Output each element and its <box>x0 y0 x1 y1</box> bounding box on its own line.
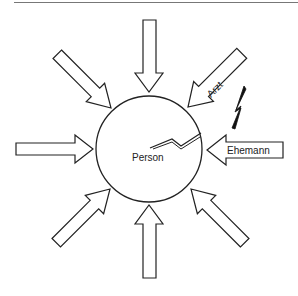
lightning-line-icon <box>150 133 201 148</box>
arrow-top-left <box>48 45 120 117</box>
ehemann-label: Ehemann <box>227 145 270 156</box>
arrow-bottom <box>135 205 163 278</box>
arrow-left <box>16 135 93 163</box>
person-label: Person <box>132 152 164 163</box>
arrow-bottom-right <box>182 180 254 252</box>
arrow-top <box>135 20 163 92</box>
lightning-bolt-icon <box>232 86 246 129</box>
arrow-bottom-left <box>47 180 119 252</box>
person-circle <box>96 96 202 202</box>
influence-diagram: Ehemann Arzt Person <box>0 0 298 296</box>
